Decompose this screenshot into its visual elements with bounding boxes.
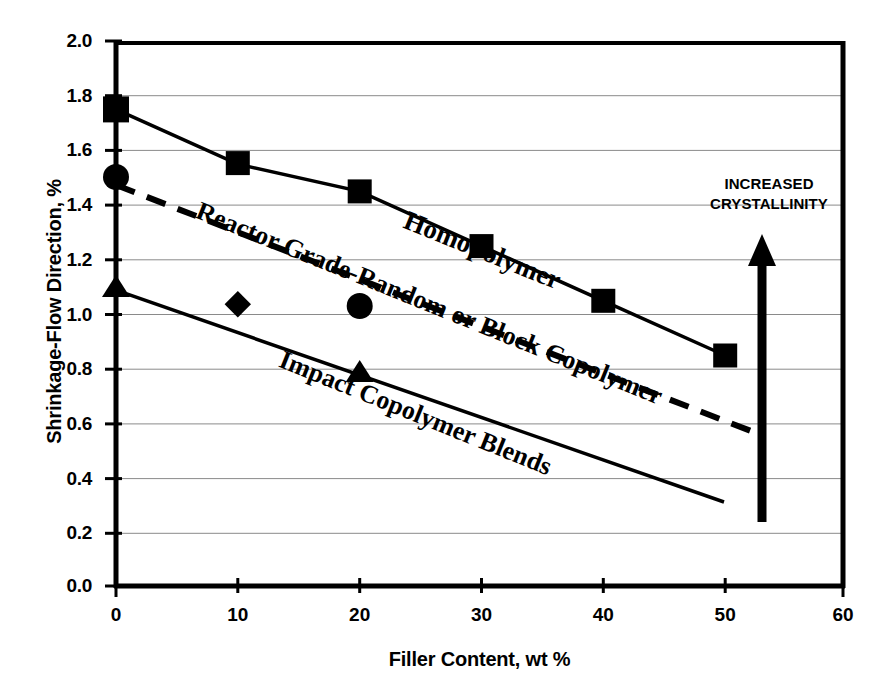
x-tick-label: 60 [821,604,865,626]
increased-crystallinity-annotation: INCREASED CRYSTALLINITY [684,174,854,215]
x-tick-label: 40 [581,604,625,626]
x-tick-label: 50 [703,604,747,626]
y-tick-label: 0.2 [40,522,92,544]
x-tick-label: 30 [460,604,504,626]
marker-square [713,344,737,368]
y-tick-label: 2.0 [40,30,92,52]
annotation-line-1: INCREASED [684,174,854,194]
chart-plot-area [0,0,891,680]
x-axis-title: Filler Content, wt % [114,648,845,671]
x-tick-label: 0 [94,604,138,626]
y-axis-title: Shrinkage-Flow Direction, % [43,147,66,477]
chart-figure: 2.0 1.8 1.6 1.4 1.2 1.0 0.8 0.6 0.4 0.2 … [0,0,891,680]
x-tick-label: 10 [216,604,260,626]
x-tick-label: 20 [338,604,382,626]
marker-square [591,289,615,313]
marker-square [348,179,372,203]
annotation-line-2: CRYSTALLINITY [684,194,854,214]
marker-circle [347,293,373,319]
y-tick-label: 1.8 [40,85,92,107]
marker-square [226,151,250,175]
y-tick-label: 0.0 [40,575,92,597]
marker-square [103,96,129,122]
marker-circle [103,164,129,190]
